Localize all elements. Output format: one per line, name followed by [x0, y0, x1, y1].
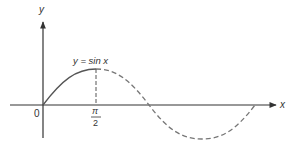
tick-pi-numerator: π [92, 106, 99, 116]
function-label: y = sin x [72, 55, 109, 66]
sine-diagram: y x 0 y = sin x π 2 [0, 0, 286, 145]
origin-label: 0 [34, 108, 40, 119]
x-axis-label: x [279, 99, 286, 110]
y-axis-label: y [38, 4, 45, 15]
sine-curve-solid [43, 69, 96, 105]
sine-curve-dashed [96, 69, 255, 139]
tick-pi-denominator: 2 [93, 118, 98, 128]
